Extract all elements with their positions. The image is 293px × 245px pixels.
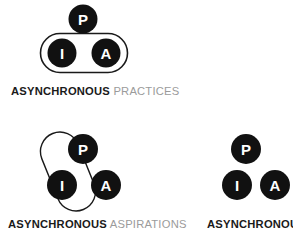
pia-diagram-plain: P I A: [200, 122, 293, 202]
figure-asynchronous-aspirations: P I A ASYNCHRONOUS ASPIRATIONS: [0, 122, 190, 242]
figure-asynchronous-practices: P I A ASYNCHRONOUS PRACTICES: [0, 0, 200, 105]
node-label-a: A: [101, 177, 112, 194]
caption-strong-text: ASYNCHRONOUS: [8, 218, 107, 230]
node-label-a: A: [270, 177, 281, 194]
caption-strong-text: ASYNCHRONOUS: [207, 218, 293, 230]
node-label-i: I: [60, 177, 64, 194]
diagram-canvas: P I A ASYNCHRONOUS PRACTICES P: [0, 0, 293, 245]
caption-light-text: ASPIRATIONS: [110, 218, 187, 230]
figure-caption-practices: ASYNCHRONOUS PRACTICES: [11, 86, 179, 97]
node-label-p: P: [241, 141, 251, 158]
caption-strong-text: ASYNCHRONOUS: [11, 85, 110, 97]
node-label-i: I: [60, 45, 64, 62]
figure-caption-aspirations: ASYNCHRONOUS ASPIRATIONS: [8, 219, 187, 230]
node-label-p: P: [78, 141, 88, 158]
node-label-a: A: [101, 45, 112, 62]
caption-light-text: PRACTICES: [113, 85, 179, 97]
figure-caption-asynchronous: ASYNCHRONOUS: [207, 219, 293, 230]
figure-asynchronous: P I A ASYNCHRONOUS: [200, 122, 293, 242]
node-label-i: I: [235, 177, 239, 194]
node-label-p: P: [78, 11, 88, 28]
pia-diagram-practices: P I A: [0, 0, 200, 80]
pia-diagram-aspirations: P I A: [0, 122, 190, 202]
